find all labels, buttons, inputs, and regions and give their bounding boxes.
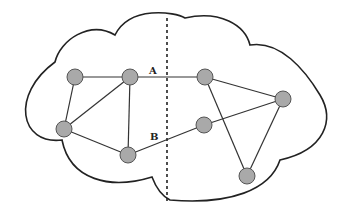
graph-node (67, 69, 83, 85)
edge (205, 77, 283, 99)
graph-node (122, 69, 138, 85)
edge-label-b: B (150, 131, 158, 142)
edge-b (128, 125, 204, 155)
edge-label-a: A (148, 65, 157, 76)
nodes (56, 69, 291, 184)
graph-node (239, 168, 255, 184)
graph-node (197, 69, 213, 85)
graph-node (120, 147, 136, 163)
edges (64, 77, 283, 176)
graph-node (275, 91, 291, 107)
graph-node (196, 117, 212, 133)
graph-node (56, 121, 72, 137)
edge (64, 129, 128, 155)
edge (128, 77, 130, 155)
network-cloud-diagram: A B (0, 0, 358, 214)
